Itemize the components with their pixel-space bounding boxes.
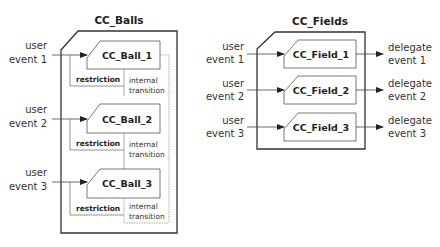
input-label-2b: event 2: [9, 118, 47, 129]
field-input-label-3a: user: [222, 115, 245, 126]
ball-group-1: user event 1 CC_Ball_1 restriction inter…: [9, 40, 165, 96]
cc-fields-diagram: CC_Fields user event 1 CC_Field_1 delega…: [206, 15, 432, 149]
field-group-3: user event 3 CC_Field_3 delegate event 3: [206, 113, 432, 141]
transition-label-3b: transition: [129, 212, 165, 221]
ball-group-3: user event 3 CC_Ball_3 restriction inter…: [9, 167, 169, 223]
transition-label-1a: internal: [129, 76, 158, 85]
transition-label-2a: internal: [129, 140, 158, 149]
return-dotted-line: [160, 55, 169, 223]
field-output-label-3b: event 3: [388, 128, 426, 139]
input-label-1b: event 1: [9, 54, 47, 65]
field-output-label-1a: delegate: [388, 42, 432, 53]
restriction-label-3: restriction: [76, 204, 120, 213]
field-name-3: CC_Field_3: [293, 122, 349, 133]
field-input-label-2a: user: [222, 78, 245, 89]
field-output-label-3a: delegate: [388, 115, 432, 126]
restriction-label-1: restriction: [76, 75, 120, 84]
restriction-label-2: restriction: [76, 139, 120, 148]
ball-group-2: user event 2 CC_Ball_2 restriction inter…: [9, 104, 165, 169]
transition-label-1b: transition: [129, 86, 165, 95]
field-name-1: CC_Field_1: [293, 49, 349, 60]
field-group-2: user event 2 CC_Field_2 delegate event 2: [206, 76, 432, 104]
cc-balls-title: CC_Balls: [94, 14, 143, 27]
input-label-3b: event 3: [9, 181, 47, 192]
field-input-label-3b: event 3: [206, 128, 244, 139]
input-label-2a: user: [25, 104, 48, 115]
cc-balls-diagram: CC_Balls user event 1 CC_Ball_1 restrict…: [9, 14, 177, 233]
transition-label-3a: internal: [129, 202, 158, 211]
cc-fields-title: CC_Fields: [292, 15, 348, 28]
field-name-2: CC_Field_2: [293, 85, 349, 96]
field-output-label-1b: event 1: [388, 55, 426, 66]
ball-name-1: CC_Ball_1: [102, 50, 152, 61]
field-output-label-2b: event 2: [388, 91, 426, 102]
input-label-3a: user: [25, 167, 48, 178]
input-label-1a: user: [25, 40, 48, 51]
field-input-label-2b: event 2: [206, 91, 244, 102]
field-input-label-1a: user: [222, 41, 245, 52]
field-output-label-2a: delegate: [388, 78, 432, 89]
field-input-label-1b: event 1: [206, 54, 244, 65]
field-group-1: user event 1 CC_Field_1 delegate event 1: [206, 40, 432, 68]
diagram-canvas: CC_Balls user event 1 CC_Ball_1 restrict…: [0, 0, 440, 247]
transition-label-2b: transition: [129, 150, 165, 159]
ball-name-2: CC_Ball_2: [102, 114, 152, 125]
ball-name-3: CC_Ball_3: [102, 178, 152, 189]
